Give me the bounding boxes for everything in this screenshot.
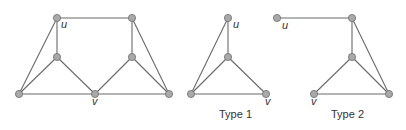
node-a [53,53,60,60]
edge-v-b [95,57,132,94]
edge-m-v [314,57,352,94]
graph-type1 [187,14,269,97]
edge-m-br [352,57,389,94]
node-br [385,90,392,97]
edge-b-br [132,57,169,94]
node-bl [187,90,194,97]
node-u [224,14,231,21]
node-m [348,53,355,60]
node-label-v: v [265,95,271,107]
node-label-u: u [282,19,288,31]
caption-type2: Type 2 [331,108,364,120]
node-br [165,90,172,97]
edge-m-v [228,57,266,94]
node-label-v: v [92,95,98,107]
graph-diagram: uvuvType 1uvType 2 [0,0,406,130]
edge-a-v [57,57,95,94]
node-m [224,53,231,60]
edge-u-bl [191,18,228,94]
node-u [53,14,60,21]
edge-tr-br [132,18,169,94]
node-label-v: v [311,95,317,107]
graph-type2 [273,14,392,97]
node-t [348,14,355,21]
edge-u-bl [19,18,57,94]
node-label-u: u [61,18,67,30]
node-label-u: u [233,18,239,30]
node-b [128,53,135,60]
graph-main [15,14,172,97]
node-tr [128,14,135,21]
node-u [273,14,280,21]
edge-m-bl [191,57,228,94]
edge-a-bl [19,57,57,94]
caption-type1: Type 1 [219,108,252,120]
node-bl [15,90,22,97]
edge-t-br [352,18,389,94]
